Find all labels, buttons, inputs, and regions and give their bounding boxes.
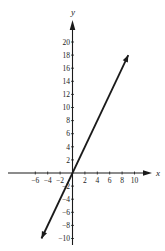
- series: [42, 55, 129, 238]
- y-tick-label: 20: [63, 38, 71, 47]
- y-tick-label: −4: [62, 195, 70, 204]
- series-arrow-end: [123, 55, 129, 63]
- y-tick-label: 12: [63, 90, 71, 99]
- x-tick-label: 2: [83, 176, 87, 185]
- y-tick-label: 14: [63, 77, 71, 86]
- y-tick-label: 8: [66, 116, 70, 125]
- y-tick-label: −10: [58, 234, 70, 243]
- chart: −6−4−2246810 2018161412108642−2−4−6−8−10…: [0, 0, 165, 251]
- y-tick-label: −8: [62, 221, 70, 230]
- series-arrow-start: [42, 231, 48, 239]
- x-tick-label: 4: [95, 176, 99, 185]
- x-ticks: −6−4−2246810: [31, 172, 138, 186]
- y-tick-label: 2: [66, 156, 70, 165]
- x-axis-arrow: [143, 170, 152, 176]
- x-tick-label: −6: [31, 176, 39, 185]
- x-axis-label: x: [155, 168, 160, 178]
- series-line: [42, 55, 129, 238]
- x-tick-label: 8: [120, 176, 124, 185]
- x-tick-label: −4: [44, 176, 52, 185]
- y-tick-label: −6: [62, 208, 70, 217]
- y-tick-label: 10: [63, 103, 71, 112]
- x-tick-label: 6: [108, 176, 112, 185]
- y-axis-arrow: [70, 20, 76, 30]
- y-tick-label: 18: [63, 51, 71, 60]
- x-tick-label: 10: [131, 176, 139, 185]
- y-tick-label: 16: [63, 64, 71, 73]
- y-ticks: 2018161412108642−2−4−6−8−10: [58, 38, 74, 244]
- y-tick-label: 6: [66, 129, 70, 138]
- y-axis-label: y: [70, 7, 75, 17]
- axes: [8, 20, 152, 245]
- y-tick-label: 4: [66, 143, 70, 152]
